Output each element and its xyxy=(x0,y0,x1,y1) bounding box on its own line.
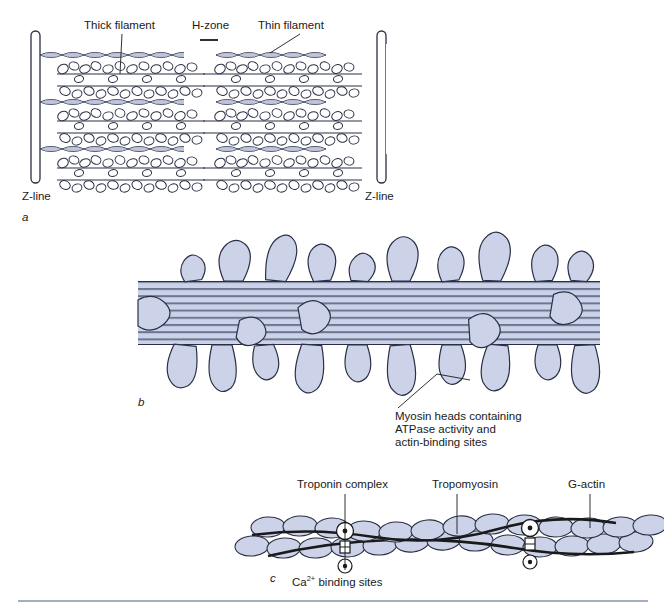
label-z-line-left: Z-line xyxy=(22,190,51,204)
label-ca-binding-sites: Ca2+ binding sites xyxy=(292,572,382,589)
panel-b-graphic xyxy=(138,231,601,408)
label-myosin-heads-line-2: ATPase activity and xyxy=(395,423,496,437)
panel-letter-c: c xyxy=(270,572,276,584)
label-z-line-right: Z-line xyxy=(365,190,394,204)
myosin-heads-bottom xyxy=(165,344,601,397)
label-myosin-heads-line-1: Myosin heads containing xyxy=(395,410,522,424)
muscle-filament-figure: Thick filament H-zone Thin filament Z-li… xyxy=(0,0,664,614)
panel-letter-a: a xyxy=(22,211,28,223)
ca-binding-sites-superscript: 2+ xyxy=(307,574,316,583)
panel-a-graphic xyxy=(0,0,664,614)
label-g-actin: G-actin xyxy=(568,478,605,492)
ca-binding-sites-suffix: binding sites xyxy=(315,576,382,588)
thick-filaments xyxy=(56,60,362,194)
label-myosin-heads-line-3: actin-binding sites xyxy=(395,436,487,450)
label-thick-filament: Thick filament xyxy=(84,19,155,33)
thin-filament-leader xyxy=(270,34,300,53)
z-line-right-bar xyxy=(377,31,386,183)
thick-filament-backbone xyxy=(138,281,600,345)
panel-c-graphic xyxy=(234,494,664,573)
z-line-left-bar xyxy=(31,31,40,183)
label-tropomyosin: Tropomyosin xyxy=(432,478,498,492)
panel-letter-b: b xyxy=(138,396,144,408)
label-troponin-complex: Troponin complex xyxy=(297,478,388,492)
label-thin-filament: Thin filament xyxy=(258,19,324,33)
myosin-heads-top xyxy=(179,231,595,282)
label-h-zone: H-zone xyxy=(192,19,229,33)
ca-binding-sites-prefix: Ca xyxy=(292,576,307,588)
